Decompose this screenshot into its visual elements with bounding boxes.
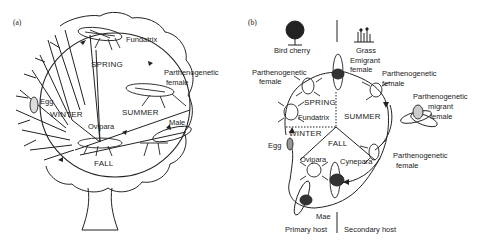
season-summer: SUMMER bbox=[122, 109, 159, 117]
aphid-cynepara-icon bbox=[330, 162, 344, 198]
tree-cycle-drawing bbox=[0, 0, 240, 244]
season-fall: FALL bbox=[94, 160, 113, 168]
label-male: Male bbox=[169, 119, 185, 127]
cycle-circle bbox=[40, 33, 190, 177]
label-fundatrix: Fundatrix bbox=[298, 114, 329, 122]
label-emigrant-female-line2: female bbox=[350, 66, 373, 74]
season-winter: WINTER bbox=[289, 130, 322, 138]
egg-icon bbox=[287, 138, 293, 150]
label-parth-left-line2: female bbox=[259, 78, 282, 86]
label-parth-migrant-line3: female bbox=[430, 113, 453, 121]
label-parth-right: Parthenogenetic bbox=[382, 70, 437, 78]
tree-branches bbox=[16, 30, 85, 160]
label-ovipara: Ovipara bbox=[300, 156, 326, 164]
season-winter: WINTER bbox=[50, 111, 83, 119]
host-grass: Grass bbox=[356, 47, 376, 55]
egg-icon bbox=[30, 97, 38, 113]
label-emigrant-female: Emigrant bbox=[350, 57, 380, 65]
tree-trunk bbox=[82, 188, 118, 230]
label-parthenogenetic-female-line2: female bbox=[166, 79, 189, 87]
label-parth-left: Parthenogenetic bbox=[252, 69, 307, 77]
bird-cherry-tree-icon bbox=[286, 21, 304, 45]
arrow-icon bbox=[383, 102, 389, 108]
label-male: Mae bbox=[316, 213, 331, 221]
grass-icon bbox=[354, 28, 374, 42]
season-spring: SPRING bbox=[304, 99, 336, 107]
host-secondary: Secondary host bbox=[344, 226, 396, 234]
host-primary: Primary host bbox=[285, 226, 327, 234]
panel-a-tag: (a) bbox=[13, 19, 21, 27]
season-spring: SPRING bbox=[91, 61, 123, 69]
panel-b-tag: (b) bbox=[248, 19, 257, 27]
season-fall: FALL bbox=[328, 140, 347, 148]
label-parth-right-line2: female bbox=[382, 80, 405, 88]
label-ovipara: Ovipara bbox=[88, 123, 114, 131]
label-parth-low: Parthenogenetic bbox=[393, 152, 448, 160]
panel-b-host-alternation-cycle: (b) Bird cherry Grass Emigrant female Pa… bbox=[240, 0, 477, 244]
label-fundatrix: Fundatrix bbox=[126, 36, 157, 44]
label-parth-migrant-line2: migrant bbox=[428, 103, 453, 111]
label-egg: Egg bbox=[40, 98, 53, 106]
label-egg: Egg bbox=[268, 142, 281, 150]
label-cynepara: Cynepara bbox=[340, 158, 373, 166]
label-parth-low-line2: female bbox=[396, 162, 419, 170]
host-alternation-drawing bbox=[240, 0, 477, 244]
label-parthenogenetic-female: Parthenogenetic bbox=[164, 69, 219, 77]
aphid-male-icon bbox=[291, 179, 313, 216]
aphid-parth-right-icon bbox=[370, 83, 382, 97]
host-bird-cherry: Bird cherry bbox=[274, 47, 310, 55]
label-parth-migrant: Parthenogenetic bbox=[413, 93, 468, 101]
panel-a-tree-life-cycle: (a) Fundatrix SPRING Parthenogenetic fem… bbox=[0, 0, 240, 244]
aphid-ovipara-icon bbox=[307, 163, 321, 177]
season-summer: SUMMER bbox=[344, 113, 381, 121]
